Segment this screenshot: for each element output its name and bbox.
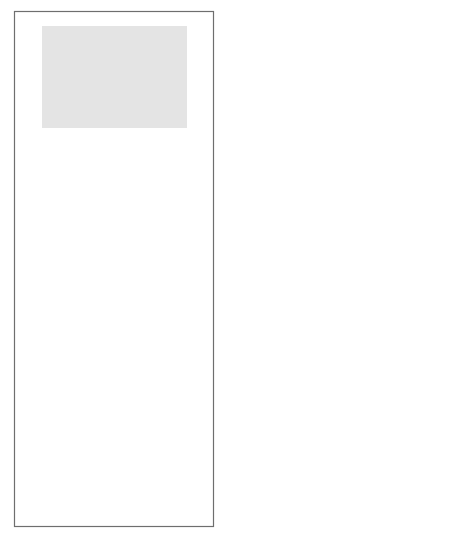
- system-dynamics-diagram: [0, 0, 464, 537]
